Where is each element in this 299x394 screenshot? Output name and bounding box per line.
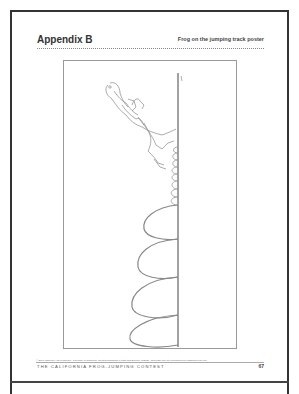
book-title: THE CALIFORNIA FROG-JUMPING CONTEST bbox=[37, 364, 165, 369]
page-frame-bottom bbox=[10, 381, 289, 383]
frog-track-poster bbox=[63, 60, 237, 349]
page-number: 67 bbox=[258, 363, 264, 369]
frog-drawing bbox=[106, 83, 176, 169]
appendix-title: Appendix B bbox=[37, 34, 93, 45]
large-arcs bbox=[130, 205, 178, 347]
page-header: Appendix B Frog on the jumping track pos… bbox=[37, 34, 264, 49]
section-subtitle: Frog on the jumping track poster bbox=[178, 36, 264, 42]
frog-jump-illustration bbox=[64, 61, 238, 350]
small-loops bbox=[171, 147, 178, 205]
copyright-notice: © 2007 Lawrence Hall of Science, Univers… bbox=[36, 359, 264, 363]
